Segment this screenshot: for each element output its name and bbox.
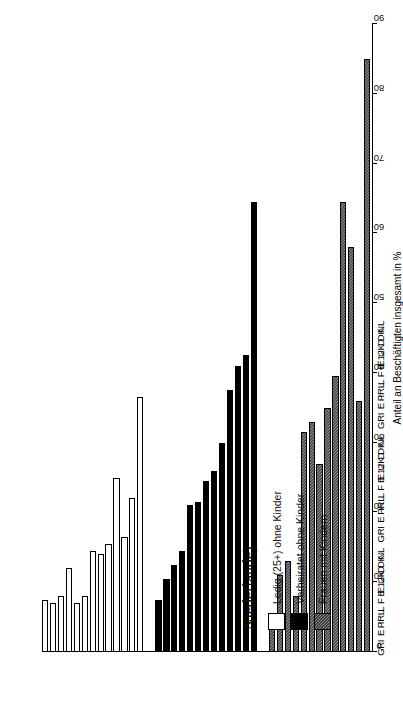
bar — [171, 565, 177, 652]
category-tick-label: E — [376, 403, 386, 409]
legend-swatch-hatch — [314, 613, 331, 630]
value-tick-label: 10 — [374, 571, 385, 582]
bar — [90, 551, 96, 652]
legend-swatch-black — [291, 613, 308, 630]
value-tick-label: 80 — [374, 83, 385, 94]
bar — [227, 390, 233, 652]
category-tick-label: L — [376, 493, 386, 498]
bar — [364, 59, 370, 652]
legend-label: Frauen mit Kindern — [317, 515, 329, 604]
category-axis: GRIEPIRLLFBE12UKDDKNLGRIEPIRLLFBE12UKDDK… — [374, 24, 396, 652]
value-tick-label: 30 — [374, 432, 385, 443]
category-tick-label: GR — [376, 415, 386, 429]
category-tick-label: UK — [376, 458, 386, 471]
category-tick-label: NL — [376, 321, 386, 333]
bar — [195, 502, 201, 652]
category-tick-label: GR — [376, 529, 386, 543]
value-tick-label: 90 — [374, 13, 385, 24]
category-tick-label: UK — [376, 344, 386, 357]
bar — [66, 568, 72, 652]
bar — [58, 596, 64, 652]
category-tick-label: L — [376, 607, 386, 612]
category-tick-label: L — [376, 380, 386, 385]
category-tick-label: NL — [376, 548, 386, 560]
bar — [105, 544, 111, 652]
value-axis-ruler — [372, 24, 373, 652]
category-tick-label: F — [376, 599, 386, 605]
bar — [163, 579, 169, 652]
legend-item: Verheiratet ohne Kinder — [291, 400, 308, 630]
bar — [98, 554, 104, 652]
value-tick-label: 50 — [374, 292, 385, 303]
legend-item: Frauen mit Kindern — [314, 400, 331, 630]
legend-title: Niederlande) — [240, 400, 258, 630]
legend: Niederlande) Ledig (25+) ohne KinderVerh… — [240, 400, 337, 630]
category-tick-label: I — [376, 526, 386, 528]
category-tick-label: E — [376, 517, 386, 523]
value-tick-label: 0 — [376, 641, 381, 652]
value-tick-label: 20 — [374, 501, 385, 512]
legend-label: Ledig (25+) ohne Kinder — [271, 491, 283, 604]
bar — [340, 202, 346, 652]
legend-swatch-white — [268, 613, 285, 630]
bar — [155, 600, 161, 652]
category-tick-label: I — [376, 413, 386, 415]
bar — [82, 596, 88, 652]
legend-item: Ledig (25+) ohne Kinder — [268, 400, 285, 630]
category-tick-label: IRL — [376, 610, 386, 624]
bar — [129, 499, 135, 653]
bar — [356, 401, 362, 652]
bar — [219, 443, 225, 652]
legend-label: Verheiratet ohne Kinder — [294, 494, 306, 604]
value-tick-label: 40 — [374, 362, 385, 373]
bar — [137, 397, 143, 652]
bar — [50, 603, 56, 652]
category-tick-label: E — [376, 630, 386, 636]
bar — [211, 471, 217, 652]
bar — [187, 505, 193, 652]
bar — [121, 537, 127, 652]
bar — [203, 481, 209, 652]
bar — [179, 551, 185, 652]
bar — [74, 603, 80, 652]
legend-rows: Ledig (25+) ohne KinderVerheiratet ohne … — [268, 400, 331, 630]
value-tick-label: 70 — [374, 153, 385, 164]
category-tick-label: F — [376, 485, 386, 491]
bar — [42, 600, 48, 652]
bar — [348, 247, 354, 652]
value-axis — [42, 652, 372, 722]
category-tick-label: IRL — [376, 383, 386, 397]
bar — [113, 478, 119, 652]
value-tick-label: 60 — [374, 222, 385, 233]
